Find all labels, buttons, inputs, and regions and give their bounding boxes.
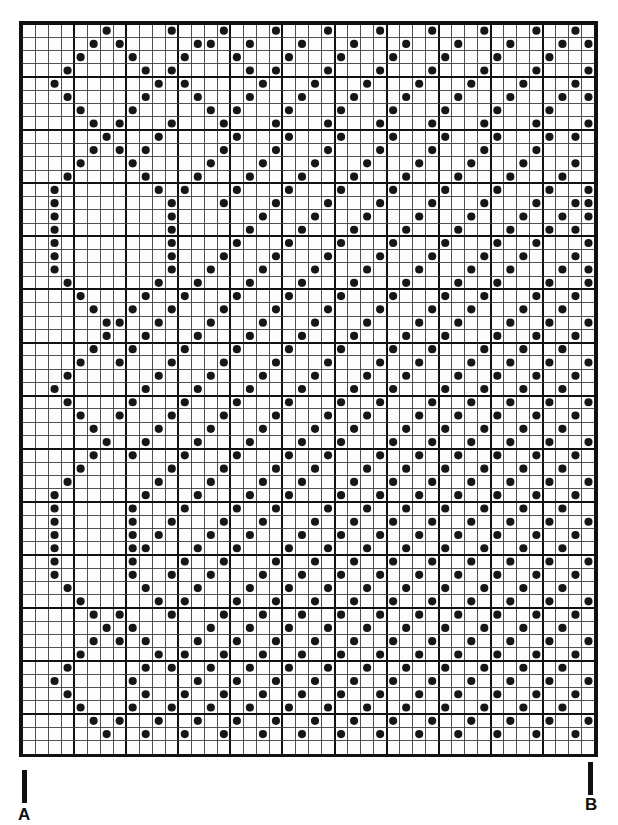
pattern-dot: [324, 66, 332, 74]
pattern-dot: [493, 690, 501, 698]
pattern-dot: [207, 159, 215, 167]
pattern-dot: [116, 358, 124, 366]
pattern-dot: [532, 199, 540, 207]
pattern-dot: [168, 199, 176, 207]
pattern-dot: [103, 624, 111, 632]
pattern-dot: [350, 226, 358, 234]
pattern-dot: [285, 664, 293, 672]
pattern-dot: [402, 624, 410, 632]
pattern-dot: [272, 305, 280, 313]
pattern-dot: [337, 611, 345, 619]
pattern-dot: [506, 173, 514, 181]
pattern-dot: [207, 425, 215, 433]
pattern-dot: [480, 425, 488, 433]
pattern-dot: [116, 411, 124, 419]
pattern-dot: [298, 478, 306, 486]
pattern-dot: [558, 305, 566, 313]
pattern-dot: [51, 544, 59, 552]
pattern-dot: [337, 292, 345, 300]
pattern-dot: [298, 173, 306, 181]
pattern-dot: [389, 597, 397, 605]
pattern-dot: [519, 252, 527, 260]
pattern-dot: [519, 345, 527, 353]
pattern-dot: [168, 226, 176, 234]
pattern-dot: [376, 119, 384, 127]
pattern-dot: [220, 557, 228, 565]
pattern-dot: [285, 133, 293, 141]
pattern-dot: [51, 80, 59, 88]
pattern-dot: [532, 611, 540, 619]
pattern-dot: [558, 173, 566, 181]
pattern-dot: [558, 465, 566, 473]
pattern-dot: [428, 478, 436, 486]
pattern-dot: [298, 571, 306, 579]
pattern-dot: [532, 650, 540, 658]
pattern-dot: [103, 133, 111, 141]
pattern-dot: [350, 717, 358, 725]
pattern-dot: [363, 80, 371, 88]
pattern-dot: [129, 518, 137, 526]
pattern-dot: [571, 27, 579, 35]
pattern-dot: [532, 451, 540, 459]
pattern-dot: [402, 332, 410, 340]
pattern-dot: [350, 425, 358, 433]
pattern-dot: [116, 717, 124, 725]
pattern-dot: [519, 703, 527, 711]
pattern-dot: [103, 730, 111, 738]
pattern-dot: [363, 465, 371, 473]
pattern-dot: [584, 398, 592, 406]
pattern-dot: [194, 93, 202, 101]
pattern-dot: [324, 146, 332, 154]
pattern-dot: [155, 279, 163, 287]
pattern-dot: [64, 372, 72, 380]
pattern-dot: [584, 93, 592, 101]
pattern-dot: [51, 252, 59, 260]
pattern-dot: [558, 212, 566, 220]
pattern-dot: [168, 571, 176, 579]
pattern-dot: [90, 717, 98, 725]
pattern-dot: [129, 345, 137, 353]
repeat-marker-b-label: B: [585, 796, 598, 813]
pattern-dot: [181, 557, 189, 565]
pattern-dot: [389, 385, 397, 393]
pattern-dot: [233, 597, 241, 605]
pattern-dot: [506, 358, 514, 366]
pattern-dot: [285, 345, 293, 353]
pattern-dot: [168, 66, 176, 74]
pattern-dot: [129, 106, 137, 114]
pattern-dot: [116, 119, 124, 127]
pattern-dot: [116, 611, 124, 619]
pattern-dot: [389, 637, 397, 645]
pattern-dot: [272, 119, 280, 127]
pattern-dot: [129, 305, 137, 313]
pattern-dot: [415, 212, 423, 220]
pattern-dot: [571, 491, 579, 499]
pattern-dot: [415, 690, 423, 698]
pattern-dot: [545, 133, 553, 141]
pattern-dot: [415, 358, 423, 366]
pattern-dot: [103, 438, 111, 446]
pattern-dot: [246, 624, 254, 632]
pattern-dot: [285, 584, 293, 592]
pattern-dot: [246, 93, 254, 101]
pattern-dot: [181, 292, 189, 300]
pattern-dot: [129, 703, 137, 711]
pattern-dot: [64, 93, 72, 101]
pattern-dot: [428, 252, 436, 260]
pattern-dot: [376, 398, 384, 406]
pattern-dot: [584, 557, 592, 565]
pattern-dot: [272, 411, 280, 419]
pattern-dot: [116, 319, 124, 327]
pattern-dot: [415, 650, 423, 658]
pattern-dot: [415, 319, 423, 327]
pattern-dot: [571, 571, 579, 579]
pattern-dot: [532, 66, 540, 74]
pattern-dot: [467, 265, 475, 273]
pattern-dot: [350, 173, 358, 181]
pattern-dot: [337, 438, 345, 446]
pattern-dot: [402, 40, 410, 48]
pattern-dot: [207, 106, 215, 114]
pattern-dot: [246, 491, 254, 499]
pattern-dot: [51, 571, 59, 579]
pattern-dot: [285, 624, 293, 632]
